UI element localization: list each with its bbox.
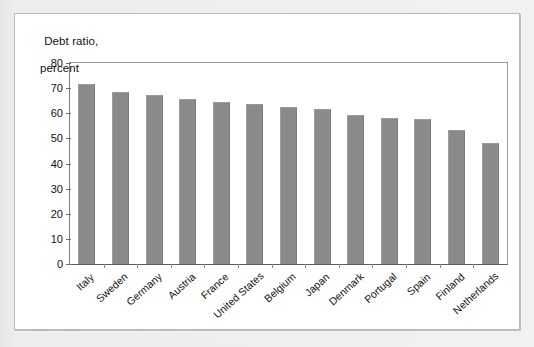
bar [78, 84, 95, 264]
x-axis-category-label: Spain [404, 271, 432, 298]
bar [246, 104, 263, 264]
bar [179, 99, 196, 264]
x-axis-category-label: Italy [74, 271, 96, 293]
y-axis-tick-label: 30 [51, 183, 70, 195]
y-axis-tick-label: 10 [51, 233, 70, 245]
y-axis-tick-label: 40 [51, 158, 70, 170]
y-axis-tick-label: 50 [51, 132, 70, 144]
x-label-slot: Belgium [271, 264, 305, 330]
plot-area: 80706050403020100 [69, 62, 508, 265]
bar-slot [339, 63, 373, 264]
x-axis-category-label: Austria [165, 270, 197, 301]
x-label-slot: Germany [136, 264, 170, 330]
bar [482, 143, 499, 264]
bar-slot [104, 63, 138, 264]
bar-slot [137, 63, 171, 264]
bar-slot [305, 63, 339, 264]
bar [347, 115, 364, 264]
axis-title-line-1: Debt ratio, [44, 35, 98, 47]
x-axis-category-labels: ItalySwedenGermanyAustriaFranceUnited St… [69, 264, 506, 330]
bar [381, 118, 398, 264]
bar [280, 107, 297, 264]
bar-slot [406, 63, 440, 264]
y-axis-tick-label: 20 [51, 208, 70, 220]
bar-slot [440, 63, 474, 264]
bar-slot [473, 63, 507, 264]
bar-slot [204, 63, 238, 264]
bar [314, 109, 331, 264]
bar-slot [70, 63, 104, 264]
bar [448, 130, 465, 264]
bar-slot [372, 63, 406, 264]
bar [414, 119, 431, 264]
y-axis-tick-label: 60 [51, 107, 70, 119]
x-axis-category-label: Japan [302, 271, 331, 299]
bar [213, 102, 230, 264]
x-label-slot: Spain [405, 264, 439, 330]
y-axis-tick-label: 80 [51, 57, 70, 69]
bar-series [70, 63, 507, 264]
figure-card: Debt ratio, percent 80706050403020100 It… [14, 13, 520, 330]
bar [112, 92, 129, 264]
y-axis-tick-label: 70 [51, 82, 70, 94]
x-label-slot: Portugal [371, 264, 405, 330]
x-label-slot: Netherlands [472, 264, 506, 330]
bar [146, 95, 163, 264]
bar-slot [238, 63, 272, 264]
x-label-slot: Austria [170, 264, 204, 330]
bar-slot [272, 63, 306, 264]
bar-slot [171, 63, 205, 264]
